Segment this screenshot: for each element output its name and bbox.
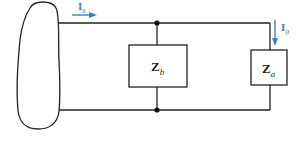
is-subscript: s xyxy=(82,6,85,15)
za-label: Za xyxy=(262,62,275,79)
za-symbol: Z xyxy=(262,61,271,76)
zb-symbol: Z xyxy=(151,59,160,74)
za-subscript: a xyxy=(271,69,276,79)
node-bottom xyxy=(154,107,159,112)
circuit-diagram: Zb Za Is Ia xyxy=(0,0,304,144)
node-top xyxy=(154,20,159,25)
current-ia-arrow-icon xyxy=(272,20,278,46)
ia-label: Ia xyxy=(281,22,289,36)
ia-subscript: a xyxy=(285,27,289,36)
zb-subscript: b xyxy=(160,67,165,77)
zb-label: Zb xyxy=(151,60,164,77)
source-oval xyxy=(17,2,60,129)
is-label: Is xyxy=(78,1,85,15)
